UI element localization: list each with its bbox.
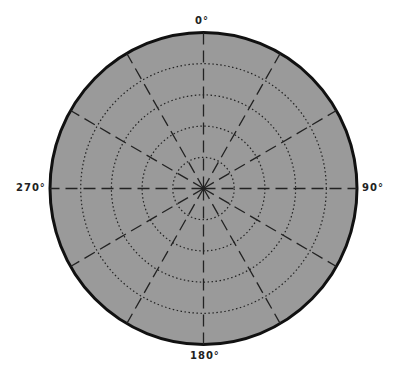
label-270deg: 270°: [16, 182, 46, 193]
polar-plot: [0, 0, 398, 380]
label-90deg: 90°: [362, 182, 384, 193]
label-180deg: 180°: [190, 350, 220, 361]
label-0deg: 0°: [195, 15, 209, 26]
